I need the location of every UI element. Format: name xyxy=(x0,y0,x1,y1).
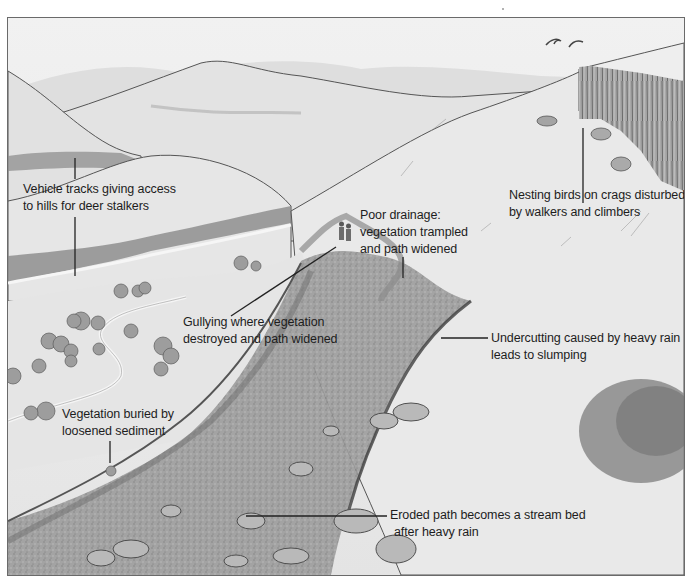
label-gullying: Gullying where vegetation destroyed and … xyxy=(183,314,337,348)
label-line: Undercutting caused by heavy rain xyxy=(491,330,680,347)
label-undercutting: Undercutting caused by heavy rain leads … xyxy=(491,330,680,364)
label-line: by walkers and climbers xyxy=(509,204,685,221)
label-stream-bed: Eroded path becomes a stream bed after h… xyxy=(390,507,586,541)
label-line: destroyed and path widened xyxy=(183,331,337,348)
label-vehicle-tracks: Vehicle tracks giving access to hills fo… xyxy=(23,181,176,215)
label-vegetation-buried: Vegetation buried by loosened sediment xyxy=(62,406,174,440)
label-line: and path widened xyxy=(360,241,468,258)
illustration-frame: Vehicle tracks giving access to hills fo… xyxy=(7,17,685,576)
label-line: Eroded path becomes a stream bed xyxy=(390,507,586,524)
label-line: Poor drainage: xyxy=(360,207,468,224)
label-line: after heavy rain xyxy=(390,524,586,541)
label-line: Nesting birds on crags disturbed xyxy=(509,187,685,204)
label-line: to hills for deer stalkers xyxy=(23,198,176,215)
label-poor-drainage: Poor drainage: vegetation trampled and p… xyxy=(360,207,468,258)
label-line: vegetation trampled xyxy=(360,224,468,241)
label-nesting-birds: Nesting birds on crags disturbed by walk… xyxy=(509,187,685,221)
label-line: Vehicle tracks giving access xyxy=(23,181,176,198)
landscape-illustration xyxy=(8,18,684,575)
label-line: Vegetation buried by xyxy=(62,406,174,423)
label-line: leads to slumping xyxy=(491,347,680,364)
label-line: Gullying where vegetation xyxy=(183,314,337,331)
label-line: loosened sediment xyxy=(62,423,174,440)
speck xyxy=(502,8,504,10)
